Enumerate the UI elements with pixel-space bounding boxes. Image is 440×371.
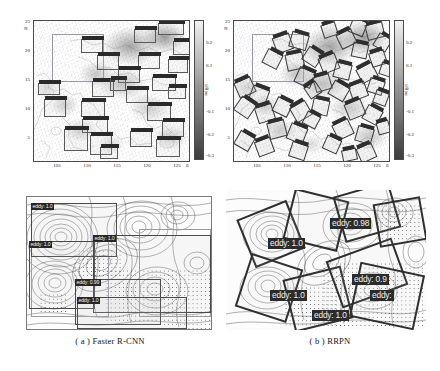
- detection-label: eddy: 1.0: [268, 238, 305, 249]
- detection-label-bar: [159, 20, 185, 24]
- colorbar-tick: -0.2: [406, 132, 414, 137]
- detection-label-bar: [119, 66, 141, 71]
- detection-label-bar: [101, 144, 119, 149]
- xtick-label: 110: [83, 163, 90, 168]
- panel-a-bottom-contour: eddy: 1.0 eddy: 1.0 eddy: 1.0 eddy: 0.99…: [0, 188, 220, 348]
- detection-box[interactable]: [97, 55, 119, 70]
- colorbar: [194, 20, 204, 160]
- panel-a-top-map: 25 N 20 15 10 5 105 110 115 120 125 E 0.…: [0, 0, 220, 188]
- detection-box[interactable]: [100, 147, 118, 159]
- colorbar-tick: -0.3: [406, 153, 414, 158]
- detection-label-bar: [82, 98, 106, 103]
- detection-label: eddy: 1.0: [29, 241, 52, 248]
- detection-label-bar: [98, 52, 120, 57]
- colorbar-axis-label: SLA (m): [204, 84, 208, 95]
- detection-box-rotated[interactable]: [341, 148, 358, 162]
- caption-a: ( a ) Faster R-CNN: [75, 336, 144, 346]
- detection-label-bar: [157, 136, 181, 141]
- ytick-label: 25: [18, 19, 30, 24]
- colorbar-tick: 0.1: [206, 63, 212, 68]
- detection-label: eddy: 1.0: [270, 290, 307, 301]
- detection-label-bar: [135, 26, 157, 31]
- detection-label-bar: [82, 36, 104, 41]
- detection-label-bar: [383, 59, 390, 66]
- detection-box[interactable]: [156, 139, 180, 157]
- detection-label-bar: [174, 38, 190, 43]
- xaxis-letter: E: [386, 163, 389, 168]
- ytick-label: 5: [18, 135, 30, 140]
- detection-label: eddy:: [370, 290, 394, 301]
- detection-label-bar: [111, 76, 127, 81]
- xtick-label: 125: [373, 163, 381, 168]
- xtick-label: 105: [53, 163, 61, 168]
- panel-a-bottom-plot-area: eddy: 1.0 eddy: 1.0 eddy: 1.0 eddy: 0.99…: [26, 196, 212, 330]
- colorbar-tick: 0.1: [406, 63, 412, 68]
- xtick-label: 110: [283, 163, 290, 168]
- colorbar-tick: 0.2: [206, 40, 212, 45]
- detection-label-bar: [139, 52, 161, 57]
- panel-b-top-map: 25 N 20 15 10 5 105 110 115 120 125 E 0.…: [220, 0, 440, 188]
- detection-box[interactable]: [173, 41, 190, 55]
- detection-label: eddy: 0.98: [330, 218, 371, 229]
- detection-box[interactable]: [138, 55, 160, 69]
- ytick-label: 15: [18, 77, 30, 82]
- panel-b-bottom-contour: eddy: 0.98 eddy: 1.0 eddy: 0.9 eddy: edd…: [220, 188, 440, 348]
- detection-label: eddy: 0.9: [352, 274, 389, 285]
- detection-box[interactable]: [110, 79, 126, 91]
- detection-label-bar: [169, 56, 189, 61]
- detection-label-bar: [65, 126, 89, 131]
- detection-box[interactable]: [158, 23, 184, 35]
- ytick-label: 25: [218, 19, 230, 24]
- xtick-label: 105: [253, 163, 261, 168]
- detection-box[interactable]: [126, 89, 148, 103]
- detection-label-bar: [127, 86, 149, 91]
- detection-box[interactable]: [44, 99, 66, 117]
- detection-box[interactable]: [130, 131, 152, 147]
- yaxis-letter: N: [224, 26, 228, 31]
- detection-box[interactable]: [168, 87, 186, 99]
- detection-label-bar: [163, 118, 185, 123]
- xtick-label: 120: [343, 163, 351, 168]
- detection-label: eddy: 1.0: [312, 310, 349, 321]
- xtick-label: 125: [173, 163, 181, 168]
- panel-b-bottom-plot-area: eddy: 0.98 eddy: 1.0 eddy: 0.9 eddy: edd…: [226, 190, 426, 330]
- colorbar-tick: -0.1: [406, 109, 414, 114]
- ytick-label: 10: [18, 106, 30, 111]
- detection-label-bar: [39, 80, 61, 85]
- colorbar-tick: -0.2: [206, 132, 214, 137]
- colorbar-tick: -0.1: [206, 109, 214, 114]
- detection-label-bar: [321, 20, 334, 26]
- detection-box[interactable]: [38, 83, 60, 95]
- detection-box[interactable]: [134, 29, 156, 43]
- colorbar-tick: -0.3: [206, 153, 214, 158]
- ytick-label: 15: [218, 77, 230, 82]
- yaxis-letter: N: [24, 26, 28, 31]
- detection-label-bar: [91, 132, 113, 137]
- detection-label-bar: [131, 128, 153, 133]
- ytick-label: 20: [218, 48, 230, 53]
- detection-label-bar: [153, 74, 177, 79]
- detection-label-bar: [169, 84, 187, 89]
- detection-box[interactable]: [64, 129, 88, 151]
- ytick-label: 5: [218, 135, 230, 140]
- detection-label-bar: [148, 102, 172, 107]
- detection-label: eddy: 1.0: [31, 203, 54, 210]
- detection-box-rotated[interactable]: [373, 196, 426, 248]
- panel-b-plot-area: [233, 20, 390, 162]
- figure-root: 25 N 20 15 10 5 105 110 115 120 125 E 0.…: [0, 0, 440, 371]
- ytick-label: 20: [18, 48, 30, 53]
- ytick-label: 10: [218, 106, 230, 111]
- caption-b: ( b ) RRPN: [310, 336, 351, 346]
- detection-label: eddy: 1.0: [77, 297, 100, 304]
- colorbar: [394, 20, 404, 160]
- detection-box-rotated[interactable]: [351, 42, 370, 60]
- xtick-label: 115: [313, 163, 320, 168]
- colorbar-tick: 0.2: [406, 40, 412, 45]
- detection-box[interactable]: [168, 59, 188, 73]
- xtick-label: 115: [113, 163, 120, 168]
- xaxis-letter: E: [186, 163, 189, 168]
- colorbar-axis-label: SLA (m): [404, 84, 408, 95]
- detection-label-bar: [365, 20, 381, 26]
- xtick-label: 120: [143, 163, 151, 168]
- detection-label-bar: [45, 96, 67, 101]
